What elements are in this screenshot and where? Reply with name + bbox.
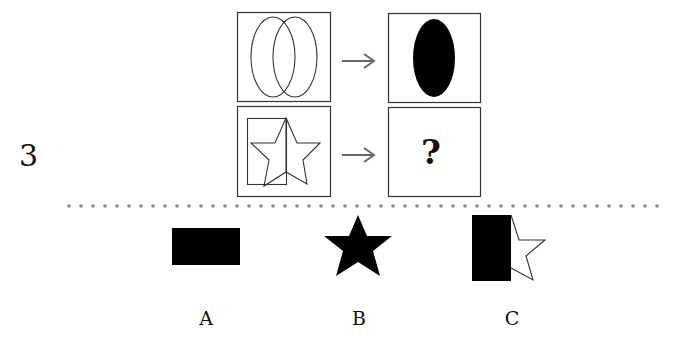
- option-a-filled-rectangle-icon[interactable]: [172, 228, 240, 265]
- question-mark: ?: [421, 132, 441, 172]
- option-a-label[interactable]: A: [191, 307, 221, 329]
- option-b-label[interactable]: B: [344, 307, 374, 329]
- option-c-rect-half-star-icon[interactable]: [472, 215, 545, 281]
- option-b-filled-star-icon[interactable]: [324, 215, 392, 276]
- filled-ellipse-icon: [413, 19, 455, 97]
- example-input-panel: [238, 13, 331, 102]
- arrow-bottom-icon: [342, 148, 374, 162]
- dotted-separator: [67, 204, 659, 208]
- option-c-label[interactable]: C: [497, 307, 527, 329]
- rectangle-outline-icon: [248, 119, 287, 185]
- puzzle-figure: [0, 0, 681, 339]
- example-output-panel: [389, 14, 481, 103]
- query-input-panel: [238, 107, 331, 197]
- arrow-top-icon: [342, 54, 374, 68]
